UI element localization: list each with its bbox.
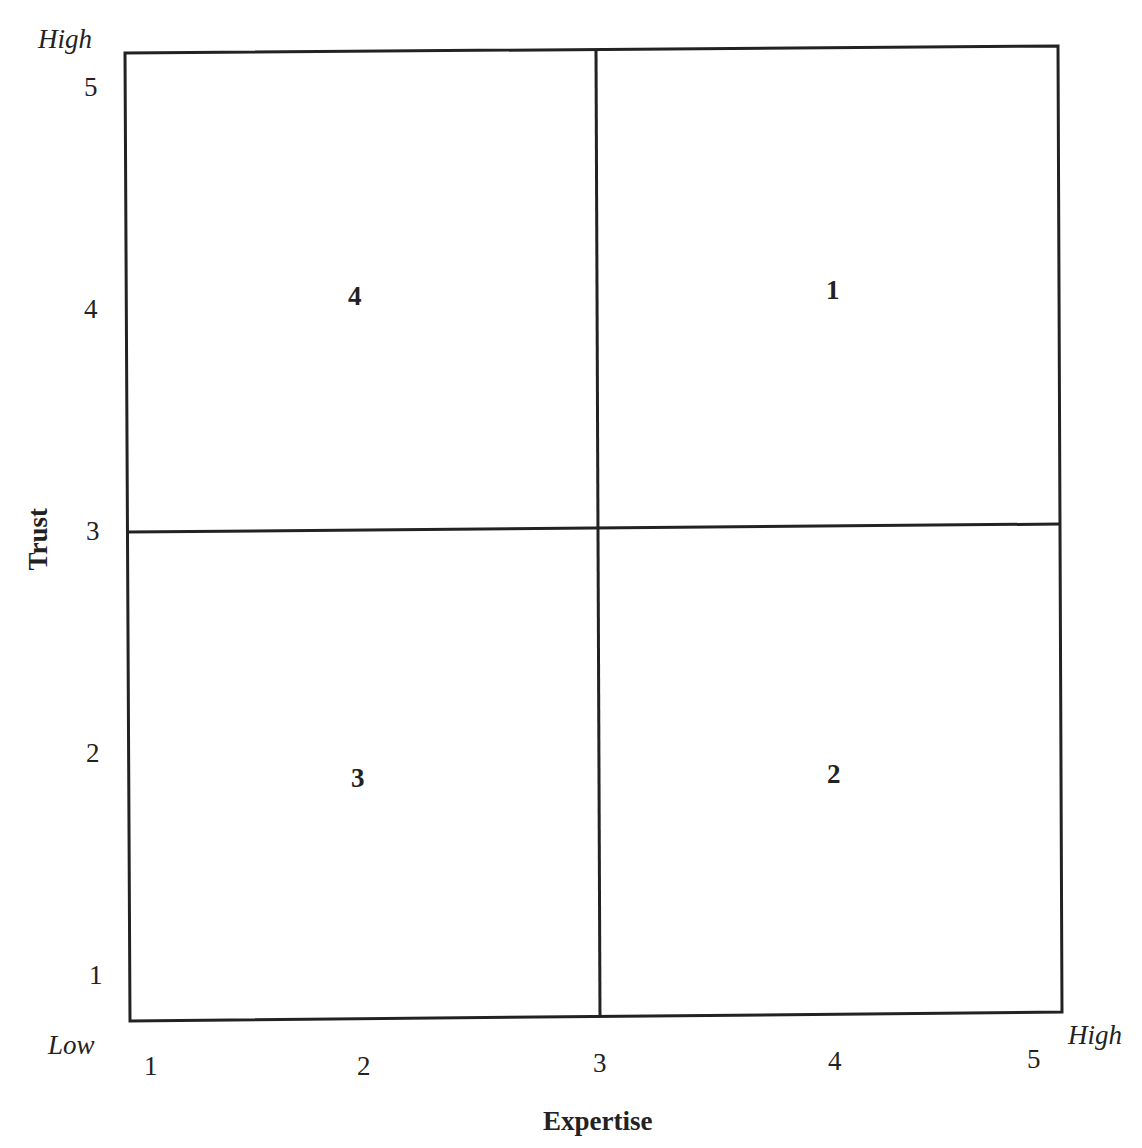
x-tick-4: 4 bbox=[828, 1048, 842, 1075]
quadrant-2-label: 2 bbox=[827, 761, 841, 788]
y-tick-2: 2 bbox=[86, 740, 100, 767]
quadrant-grid bbox=[0, 0, 1142, 1148]
y-axis-title: Trust bbox=[23, 511, 54, 571]
x-axis-title: Expertise bbox=[543, 1108, 652, 1135]
x-tick-5: 5 bbox=[1027, 1046, 1041, 1073]
x-tick-3: 3 bbox=[593, 1050, 607, 1077]
x-tick-1: 1 bbox=[144, 1053, 158, 1080]
y-tick-1: 1 bbox=[89, 962, 103, 989]
quadrant-4-label: 4 bbox=[348, 283, 362, 310]
y-low-label: Low bbox=[48, 1032, 95, 1059]
quadrant-3-label: 3 bbox=[351, 765, 365, 792]
y-tick-4: 4 bbox=[84, 296, 98, 323]
quadrant-1-label: 1 bbox=[826, 277, 840, 304]
horizontal-divider bbox=[128, 524, 1060, 532]
x-tick-2: 2 bbox=[357, 1053, 371, 1080]
y-tick-5: 5 bbox=[84, 74, 98, 101]
y-tick-3: 3 bbox=[86, 518, 100, 545]
x-high-label: High bbox=[1068, 1022, 1122, 1049]
y-high-label: High bbox=[38, 26, 92, 53]
vertical-divider bbox=[596, 50, 600, 1017]
outer-frame bbox=[125, 46, 1062, 1021]
